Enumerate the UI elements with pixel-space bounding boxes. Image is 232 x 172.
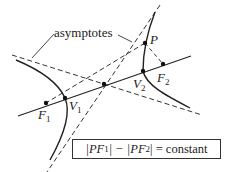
label-F1: F1 (38, 108, 50, 124)
point-F1 (44, 101, 48, 105)
label-V1: V1 (69, 99, 81, 115)
hyperbola-right-branch (143, 12, 190, 108)
point-V1 (63, 96, 67, 100)
label-P: P (150, 33, 158, 46)
asymptote-pointer-right (118, 35, 132, 42)
segment-pf1 (46, 43, 145, 103)
point-F2 (161, 62, 165, 66)
point-P (143, 41, 147, 45)
asymptotes-label: asymptotes (54, 26, 113, 39)
eq-part1: |PF (85, 142, 104, 157)
label-F2: F2 (157, 71, 169, 87)
point-center (102, 82, 106, 86)
equation-box: |PF1| − |PF2| = constant (72, 139, 221, 159)
asymptote-pointer-left (32, 34, 54, 58)
eq-part2: | − |PF (109, 142, 146, 157)
label-V2: V2 (133, 77, 145, 93)
point-V2 (141, 69, 145, 73)
eq-part3: | = constant (150, 142, 207, 157)
hyperbola-diagram: asymptotes P F2 V2 V1 F1 |PF1| − |PF2| =… (0, 0, 232, 172)
